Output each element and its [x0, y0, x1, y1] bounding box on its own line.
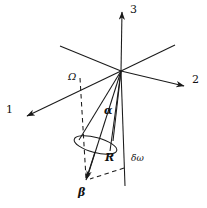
omega-dashed-drop	[80, 78, 86, 178]
beta-vector-arrow	[86, 152, 95, 180]
axis-1-label: 1	[6, 104, 13, 115]
figure-canvas: 1 2 3 Ω α R δω β	[0, 0, 207, 208]
beta-base-dashed	[90, 168, 124, 179]
axis-1-extension	[121, 45, 175, 71]
axis-2-label: 2	[192, 74, 199, 85]
axis-3-label: 3	[130, 4, 137, 15]
omega-node-label: Ω	[68, 72, 76, 82]
axis-2-extension	[60, 46, 121, 71]
radius-vector-label: R	[105, 152, 114, 163]
axis-2-line	[121, 71, 184, 86]
axis-3-line	[121, 12, 122, 71]
delta-omega-label: δω	[131, 154, 144, 163]
beta-vector-label: β	[78, 187, 85, 198]
alpha-angle-label: α	[104, 105, 112, 116]
